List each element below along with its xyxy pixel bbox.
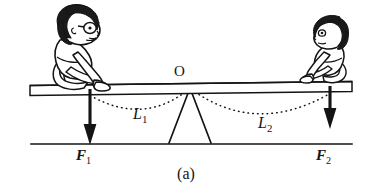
lever-arm-right-base: L: [258, 114, 267, 131]
triangular-support: [169, 88, 211, 143]
lever-diagram-figure: O L1 L2 F1 F2 (a): [0, 0, 372, 195]
force-left-base: F: [76, 147, 86, 163]
force-left-subscript: 1: [86, 155, 91, 166]
lever-arm-left-subscript: 1: [142, 113, 147, 125]
force-right-base: F: [316, 147, 326, 163]
force-left-label: F1: [76, 148, 91, 166]
child-figure-left: [53, 5, 110, 91]
force-right-subscript: 2: [326, 155, 331, 166]
lever-arm-left-label: L1: [133, 106, 147, 125]
child-figure-right: [300, 15, 348, 83]
fulcrum-point-label: O: [174, 64, 185, 79]
lever-arm-right-label: L2: [258, 115, 272, 134]
figure-caption: (a): [0, 166, 372, 182]
lever-arm-right-subscript: 2: [267, 122, 272, 134]
force-right-label: F2: [316, 148, 331, 166]
lever-arm-left-base: L: [133, 105, 142, 122]
